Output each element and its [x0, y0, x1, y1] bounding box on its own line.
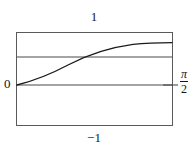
origin-label: 0 [4, 77, 11, 90]
x-max-label: π 2 [175, 68, 193, 95]
y-max-label: 1 [0, 10, 188, 23]
pi-over-two-fraction: π 2 [180, 68, 188, 95]
y-min-label: −1 [0, 131, 188, 144]
math-figure: 1 0 −1 π 2 [0, 0, 193, 153]
fraction-numerator: π [180, 68, 188, 80]
fraction-denominator: 2 [180, 83, 188, 95]
plot-frame [17, 33, 173, 126]
